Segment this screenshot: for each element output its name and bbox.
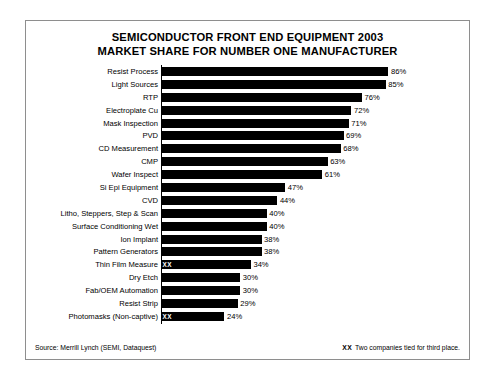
bar	[161, 196, 277, 205]
tie-marker: XX	[161, 260, 172, 269]
bar-row: Fab/OEM Automation30%	[26, 284, 469, 297]
bar	[161, 209, 267, 218]
bar-row: CD Measurement68%	[26, 142, 469, 155]
bar	[161, 170, 322, 179]
bar	[161, 119, 349, 128]
category-label: Si Epi Equipment	[26, 183, 161, 192]
bar-row: Ion Implant38%	[26, 233, 469, 246]
bar-track: 40%	[161, 207, 469, 220]
bar	[161, 106, 351, 115]
bar	[161, 131, 344, 140]
bar	[161, 93, 362, 102]
bar-row: Thin Film MeasureXX34%	[26, 258, 469, 271]
bar-row: Resist Strip29%	[26, 297, 469, 310]
bar-row: Litho, Steppers, Step & Scan40%	[26, 207, 469, 220]
bar-row: PVD69%	[26, 129, 469, 142]
bar	[161, 299, 238, 308]
bar	[161, 222, 267, 231]
chart-title-line-1: SEMICONDUCTOR FRONT END EQUIPMENT 2003	[26, 30, 469, 44]
bar-value-label: 44%	[277, 196, 295, 205]
bar-track: 29%	[161, 297, 469, 310]
category-label: Thin Film Measure	[26, 260, 161, 269]
bar-value-label: 29%	[238, 299, 256, 308]
bar-row: Light Sources85%	[26, 78, 469, 91]
category-label: CMP	[26, 157, 161, 166]
tie-marker-legend: XX	[342, 344, 352, 351]
bar-value-label: 47%	[285, 183, 303, 192]
bar	[161, 183, 285, 192]
bar-row: Photomasks (Non-captive)XX24%	[26, 310, 469, 323]
category-label: Pattern Generators	[26, 247, 161, 256]
bar-value-label: 71%	[349, 119, 367, 128]
bar-track: 63%	[161, 155, 469, 168]
bar-value-label: 63%	[328, 157, 346, 166]
bar-track: XX34%	[161, 258, 469, 271]
bar-track: 76%	[161, 91, 469, 104]
bar-row: CMP63%	[26, 155, 469, 168]
bar	[161, 80, 386, 89]
bar-track: 30%	[161, 271, 469, 284]
bar	[161, 144, 341, 153]
bar-row: Surface Conditioning Wet40%	[26, 220, 469, 233]
bar-value-label: 86%	[388, 67, 406, 76]
category-label: Litho, Steppers, Step & Scan	[26, 209, 161, 218]
tie-marker: XX	[161, 312, 172, 321]
bar-value-label: 72%	[351, 106, 369, 115]
bar	[161, 247, 262, 256]
bar-row: Si Epi Equipment47%	[26, 181, 469, 194]
category-label: Resist Process	[26, 67, 161, 76]
category-label: Photomasks (Non-captive)	[26, 312, 161, 321]
bar-track: 69%	[161, 129, 469, 142]
bar	[161, 235, 262, 244]
bar-row: Dry Etch30%	[26, 271, 469, 284]
tie-note-text: Two companies tied for third place.	[355, 343, 460, 352]
bar-track: 38%	[161, 233, 469, 246]
tie-note: XX Two companies tied for third place.	[342, 343, 460, 352]
bar-value-label: 30%	[240, 286, 258, 295]
bar-track: 72%	[161, 104, 469, 117]
bar-value-label: 68%	[341, 144, 359, 153]
bar-row: Wafer Inspect61%	[26, 168, 469, 181]
category-label: Dry Etch	[26, 273, 161, 282]
bar-rows: Resist Process86%Light Sources85%RTP76%E…	[26, 65, 469, 323]
bar-track: 68%	[161, 142, 469, 155]
category-label: Surface Conditioning Wet	[26, 222, 161, 231]
bar-track: 85%	[161, 78, 469, 91]
category-label: Mask Inspection	[26, 119, 161, 128]
bar-row: Pattern Generators38%	[26, 245, 469, 258]
bar-value-label: 61%	[322, 170, 340, 179]
bar	[161, 67, 388, 76]
bar: XX	[161, 260, 251, 269]
category-label: Fab/OEM Automation	[26, 286, 161, 295]
bar-track: 40%	[161, 220, 469, 233]
category-label: Ion Implant	[26, 235, 161, 244]
bar: XX	[161, 312, 224, 321]
bar-row: Resist Process86%	[26, 65, 469, 78]
bar-track: 86%	[161, 65, 469, 78]
bar-value-label: 40%	[267, 209, 285, 218]
bar-value-label: 85%	[386, 80, 404, 89]
chart-frame: SEMICONDUCTOR FRONT END EQUIPMENT 2003 M…	[25, 20, 470, 360]
category-label: PVD	[26, 131, 161, 140]
bar-row: Electroplate Cu72%	[26, 104, 469, 117]
bar-track: 44%	[161, 194, 469, 207]
bar-row: Mask Inspection71%	[26, 117, 469, 130]
bar-track: 38%	[161, 245, 469, 258]
category-label: Wafer Inspect	[26, 170, 161, 179]
bar-track: 47%	[161, 181, 469, 194]
category-label: Resist Strip	[26, 299, 161, 308]
bar-value-label: 30%	[240, 273, 258, 282]
bar-value-label: 76%	[362, 93, 380, 102]
bar	[161, 273, 240, 282]
bar-row: RTP76%	[26, 91, 469, 104]
category-label: CD Measurement	[26, 144, 161, 153]
category-label: RTP	[26, 93, 161, 102]
bar-value-label: 34%	[251, 260, 269, 269]
bar-track: XX24%	[161, 310, 469, 323]
category-label: Electroplate Cu	[26, 106, 161, 115]
chart-footer: Source: Merrill Lynch (SEMI, Dataquest) …	[26, 343, 469, 352]
bar-track: 30%	[161, 284, 469, 297]
bar-track: 71%	[161, 117, 469, 130]
source-note: Source: Merrill Lynch (SEMI, Dataquest)	[35, 343, 156, 352]
bar-value-label: 40%	[267, 222, 285, 231]
